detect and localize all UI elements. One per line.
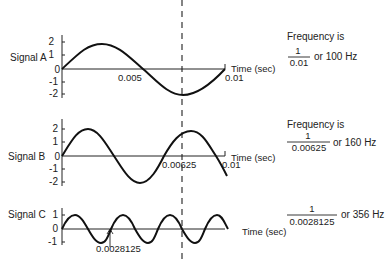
signal-a-tick: 0 <box>54 64 60 75</box>
signal-c-label: Signal C <box>8 209 46 220</box>
signal-c-frequency: 1 0.0028125 or 356 Hz <box>287 203 384 227</box>
signal-b-tick: 0 <box>54 151 60 162</box>
svg-text:0.01: 0.01 <box>290 57 309 68</box>
signal-a-tick: 2 <box>48 36 54 47</box>
signal-a-tick: -1 <box>49 76 58 87</box>
signal-c-tick: 0 <box>52 223 58 234</box>
signal-c-plot: Signal C 1 0 -1 0.0028125 <box>8 208 228 254</box>
signal-b-tick: 2 <box>52 123 58 134</box>
svg-text:0.0028125: 0.0028125 <box>290 216 335 227</box>
svg-text:1: 1 <box>309 203 314 214</box>
time-axis-label-c: Time (sec) <box>242 226 287 237</box>
signal-c-tick: -1 <box>48 236 57 247</box>
svg-text:or 160 Hz: or 160 Hz <box>333 137 376 148</box>
svg-text:Frequency is: Frequency is <box>287 31 344 42</box>
signal-b-label: Signal B <box>8 151 46 162</box>
time-axis-label-b: Time (sec) <box>231 152 276 163</box>
signal-b-period-label: 0.00625 <box>162 159 196 170</box>
svg-text:1: 1 <box>305 130 310 141</box>
svg-text:1: 1 <box>295 45 300 56</box>
svg-text:Frequency is: Frequency is <box>287 119 344 130</box>
signal-a-frequency: Frequency is 1 0.01 or 100 Hz <box>287 31 357 68</box>
signal-diagram: Signal A 2 1 0 -1 -2 0.005 0.01 Time (se… <box>0 0 390 264</box>
signal-b-tick: -2 <box>49 176 58 187</box>
time-axis-label-a: Time (sec) <box>231 63 276 74</box>
signal-c-tick: 1 <box>52 209 58 220</box>
signal-a-label: Signal A <box>10 52 47 63</box>
signal-b-frequency: Frequency is 1 0.00625 or 160 Hz <box>287 119 376 153</box>
signal-b-plot: Signal B 2 1 0 -1 -2 0.00625 0.01 <box>8 119 241 187</box>
signal-a-half-period-label: 0.005 <box>118 72 142 83</box>
svg-text:0.00625: 0.00625 <box>292 142 326 153</box>
signal-a-tick: 1 <box>48 49 54 60</box>
signal-c-period-label: 0.0028125 <box>96 243 141 254</box>
signal-b-tick: -1 <box>49 163 58 174</box>
signal-a-plot: Signal A 2 1 0 -1 -2 0.005 0.01 <box>10 35 244 99</box>
svg-text:or 100 Hz: or 100 Hz <box>314 51 357 62</box>
signal-a-tick: -2 <box>49 88 58 99</box>
signal-b-tick: 1 <box>52 136 58 147</box>
svg-text:or 356 Hz: or 356 Hz <box>341 209 384 220</box>
